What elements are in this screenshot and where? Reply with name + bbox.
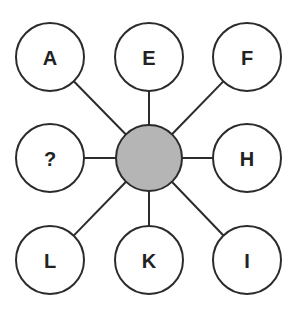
spoke-line-bottom-right [172, 182, 224, 236]
letter-wheel-diagram: AEF?HLKI [0, 0, 300, 316]
missing-letter-label: ? [44, 148, 56, 170]
node-letter-label: A [43, 47, 57, 69]
node-middle-right: H [213, 124, 281, 192]
node-bottom-center: K [115, 226, 183, 294]
node-bottom-left: L [16, 226, 84, 294]
node-top-left: A [16, 23, 84, 91]
node-bottom-right: I [213, 226, 281, 294]
hub-circle [116, 125, 182, 191]
node-letter-label: F [241, 47, 253, 69]
node-letter-label: E [142, 47, 155, 69]
node-letter-label: L [44, 250, 56, 272]
node-middle-left: ? [16, 124, 84, 192]
node-top-right: F [213, 23, 281, 91]
spoke-line-top-right [172, 81, 223, 134]
spoke-line-top-left [74, 81, 126, 134]
hub [116, 125, 182, 191]
node-letter-label: K [142, 250, 157, 272]
node-letter-label: H [240, 148, 254, 170]
node-letter-label: I [244, 250, 250, 272]
node-top-center: E [115, 23, 183, 91]
spoke-line-bottom-left [74, 182, 126, 236]
